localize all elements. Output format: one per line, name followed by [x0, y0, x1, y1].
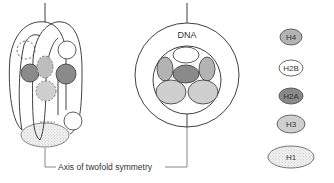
legend-item-h3: H3 — [277, 115, 305, 133]
h2b-dashed-left — [17, 41, 35, 59]
axis-of-symmetry-label: Axis of twofold symmetry — [58, 162, 153, 172]
top-view: DNA — [135, 3, 239, 167]
h2a-center — [173, 65, 199, 83]
side-view — [9, 3, 82, 167]
h2b-lower-right — [64, 112, 82, 130]
legend-label-h4: H4 — [286, 33, 297, 42]
h3-middle — [36, 81, 56, 101]
legend-item-h2b: H2B — [279, 60, 303, 76]
axis-leader-right — [165, 127, 187, 167]
h3-right — [188, 80, 218, 104]
h4-left — [157, 57, 173, 81]
legend-label-h2b: H2B — [283, 64, 299, 73]
dna-label: DNA — [177, 30, 196, 40]
legend-item-h2a: H2A — [279, 88, 303, 104]
legend-label-h1: H1 — [286, 153, 297, 162]
nucleosome-diagram: DNA Axis of twofold symmetry H4 H2B H2A … — [0, 0, 334, 183]
h3-left — [156, 80, 186, 104]
h1-linker-histone — [21, 123, 69, 147]
h2b-top — [173, 47, 199, 63]
axis-leader-left — [45, 148, 56, 167]
legend-label-h3: H3 — [286, 120, 297, 129]
h4-right — [199, 57, 215, 81]
legend: H4 H2B H2A H3 H1 — [268, 29, 314, 168]
legend-item-h4: H4 — [280, 29, 302, 45]
h2a-right — [56, 64, 76, 84]
legend-label-h2a: H2A — [283, 92, 299, 101]
legend-item-h1: H1 — [268, 146, 314, 168]
h2a-left — [21, 64, 39, 82]
h4-middle — [37, 56, 53, 78]
h2b-front-right — [58, 41, 76, 59]
